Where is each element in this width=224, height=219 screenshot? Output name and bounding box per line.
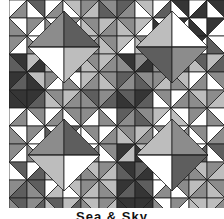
quilt-image: [9, 0, 224, 208]
quilt-pattern: [9, 0, 224, 208]
quilt-caption: Sea & Sky: [0, 210, 224, 219]
